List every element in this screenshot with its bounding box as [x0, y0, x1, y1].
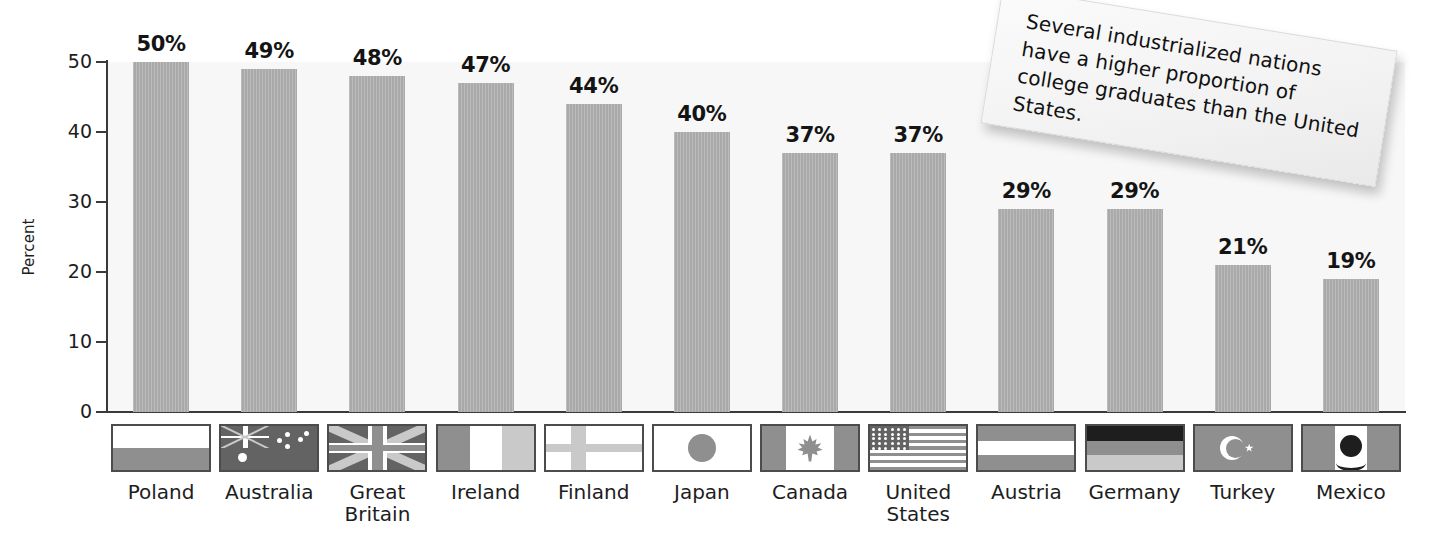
category-united-states: UnitedStates [864, 424, 972, 526]
bar [458, 83, 514, 412]
southern-cross-star [277, 438, 282, 443]
star [903, 428, 906, 431]
bar-value-label: 21% [1183, 237, 1303, 258]
bar [998, 209, 1054, 412]
coat-of-arms-emblem [1340, 435, 1362, 457]
category-label-line1: Mexico [1297, 481, 1405, 503]
y-axis-tick [96, 411, 107, 413]
bar-value-label: 48% [317, 48, 437, 69]
crescent-inner [1226, 439, 1245, 458]
category-label-line1: Turkey [1189, 481, 1297, 503]
star [878, 442, 881, 445]
y-axis-tick [96, 271, 107, 273]
finland-flag [544, 424, 644, 472]
category-austria: Austria [972, 424, 1080, 503]
band-green [438, 426, 470, 470]
bar-value-label: 40% [642, 104, 762, 125]
category-label-line1: Australia [215, 481, 323, 503]
category-label: Mexico [1297, 481, 1405, 503]
star [903, 433, 906, 436]
australia-flag [219, 424, 319, 472]
category-canada: Canada [756, 424, 864, 503]
category-label-line1: Austria [972, 481, 1080, 503]
bar-value-label: 49% [209, 41, 329, 62]
category-label: Germany [1081, 481, 1189, 503]
category-label-line1: Japan [648, 481, 756, 503]
poland-flag [111, 424, 211, 472]
y-axis-title: Percent [20, 202, 38, 292]
mexico-flag [1301, 424, 1401, 472]
category-label-line1: Finland [540, 481, 648, 503]
bar [1107, 209, 1163, 412]
united-states-flag [868, 424, 968, 472]
y-axis-tick-label: 0 [52, 402, 92, 421]
stripe [870, 460, 966, 463]
star [884, 437, 887, 440]
star [872, 433, 875, 436]
y-axis-tick [96, 61, 107, 63]
bar [890, 153, 946, 412]
flag-band-white [113, 426, 209, 448]
category-mexico: Mexico [1297, 424, 1405, 503]
sun-disc [688, 434, 716, 462]
category-label: Austria [972, 481, 1080, 503]
band-red [1087, 441, 1183, 456]
y-axis-tick [96, 341, 107, 343]
stripe [870, 467, 966, 470]
star [897, 442, 900, 445]
star [878, 428, 881, 431]
category-japan: Japan [648, 424, 756, 503]
band-black [1087, 426, 1183, 441]
star [884, 447, 887, 450]
category-turkey: Turkey [1189, 424, 1297, 503]
bar-value-label: 37% [750, 125, 870, 146]
bar-value-label: 19% [1291, 251, 1411, 272]
category-label-line2: Britain [323, 503, 431, 525]
star [891, 442, 894, 445]
star [884, 428, 887, 431]
bar-value-label: 50% [101, 34, 221, 55]
category-label: Poland [107, 481, 215, 503]
category-australia: Australia [215, 424, 323, 503]
category-label: Ireland [432, 481, 540, 503]
category-label-line1: Germany [1081, 481, 1189, 503]
band-white [470, 426, 502, 470]
category-label: UnitedStates [864, 481, 972, 526]
chart-root: 50403020100 Percent 50%49%48%47%44%40%37… [0, 0, 1430, 559]
japan-flag [652, 424, 752, 472]
bar-value-label: 37% [858, 125, 978, 146]
bar-value-label: 47% [426, 55, 546, 76]
star [897, 428, 900, 431]
bar-value-label: 29% [1075, 181, 1195, 202]
band-red-top [978, 426, 1074, 441]
star [897, 447, 900, 450]
band-green [1303, 426, 1335, 470]
southern-cross-star [285, 432, 290, 437]
y-axis-tick [96, 201, 107, 203]
star [897, 433, 900, 436]
star [903, 447, 906, 450]
southern-cross-star [285, 444, 290, 449]
turkey-flag [1193, 424, 1293, 472]
category-great-britain: GreatBritain [323, 424, 431, 526]
category-label: Australia [215, 481, 323, 503]
category-finland: Finland [540, 424, 648, 503]
bar [349, 76, 405, 412]
star [891, 437, 894, 440]
star [878, 433, 881, 436]
nordic-cross-h [546, 444, 642, 453]
star [872, 442, 875, 445]
flag-union-canton [221, 426, 269, 448]
star [884, 433, 887, 436]
star [897, 437, 900, 440]
bar [1215, 265, 1271, 412]
category-ireland: Ireland [432, 424, 540, 503]
canada-flag [760, 424, 860, 472]
star [872, 437, 875, 440]
ireland-flag [436, 424, 536, 472]
bar [1323, 279, 1379, 412]
category-label: Canada [756, 481, 864, 503]
category-label: GreatBritain [323, 481, 431, 526]
band-right [834, 426, 858, 470]
y-axis-tick-label: 30 [52, 192, 92, 211]
